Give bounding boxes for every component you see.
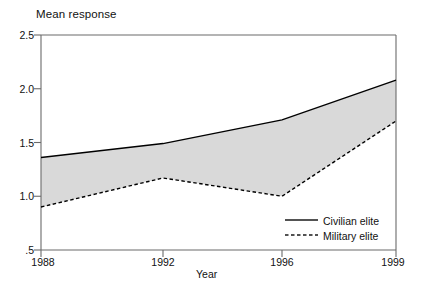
plot-area	[0, 0, 423, 294]
chart-container: Mean response Year 2.5 2.0 1.5 1.0 .5 19…	[0, 0, 423, 294]
